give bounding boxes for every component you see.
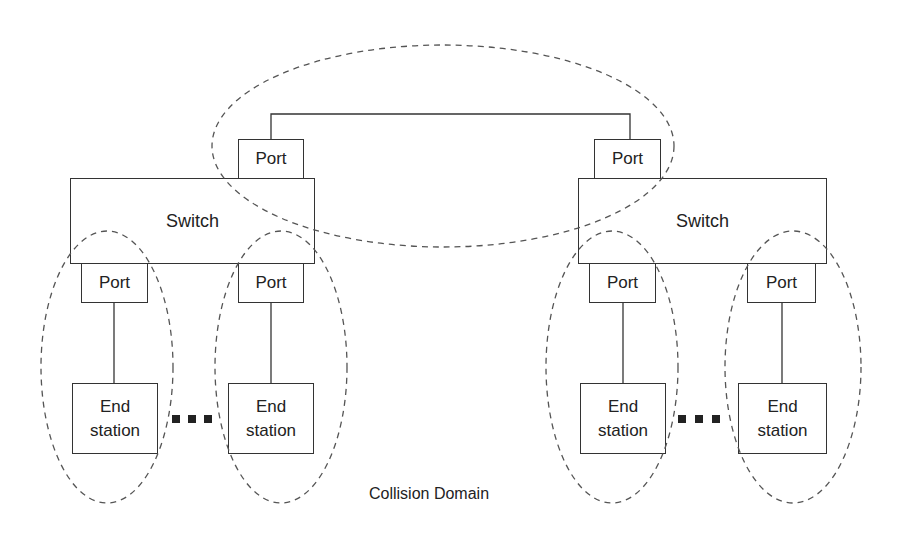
- port-r2: Port: [747, 263, 816, 303]
- port-uplink-right: Port: [594, 139, 661, 179]
- port-label: Port: [607, 273, 638, 293]
- station-label-line2: station: [246, 419, 296, 443]
- uplink-link: [271, 114, 630, 139]
- port-label: Port: [255, 273, 286, 293]
- port-l1: Port: [81, 263, 148, 303]
- end-station-r1: End station: [580, 383, 666, 454]
- station-label-line2: station: [598, 419, 648, 443]
- end-station-l2: End station: [228, 383, 314, 454]
- switch-left-label: Switch: [166, 211, 219, 232]
- station-label-line2: station: [90, 419, 140, 443]
- end-station-r2: End station: [738, 383, 827, 454]
- end-station-l1: End station: [72, 383, 158, 454]
- port-uplink-left: Port: [238, 139, 304, 179]
- port-l2: Port: [238, 263, 304, 303]
- collision-domain-caption: Collision Domain: [369, 485, 489, 503]
- port-label: Port: [612, 149, 643, 169]
- switch-right: Switch: [578, 178, 827, 264]
- station-label-line1: End: [100, 395, 130, 419]
- switch-left: Switch: [70, 178, 315, 264]
- switch-right-label: Switch: [676, 211, 729, 232]
- station-label-line1: End: [256, 395, 286, 419]
- station-label-line1: End: [767, 395, 797, 419]
- port-r1: Port: [589, 263, 656, 303]
- port-label: Port: [99, 273, 130, 293]
- port-label: Port: [766, 273, 797, 293]
- station-label-line1: End: [608, 395, 638, 419]
- port-label: Port: [255, 149, 286, 169]
- station-label-line2: station: [757, 419, 807, 443]
